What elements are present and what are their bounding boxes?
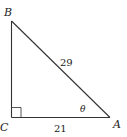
- vertex-label-b: B: [3, 6, 12, 19]
- triangle-sides: [12, 21, 111, 118]
- right-angle-marker: [12, 108, 22, 118]
- triangle-diagram: B C A 29 21 θ: [0, 0, 127, 137]
- angle-theta-label: θ: [80, 104, 86, 114]
- vertex-label-c: C: [0, 121, 9, 134]
- side-ab-hypotenuse: [12, 21, 111, 118]
- hypotenuse-length-label: 29: [60, 57, 73, 68]
- vertex-label-a: A: [112, 118, 121, 131]
- base-length-label: 21: [54, 123, 67, 134]
